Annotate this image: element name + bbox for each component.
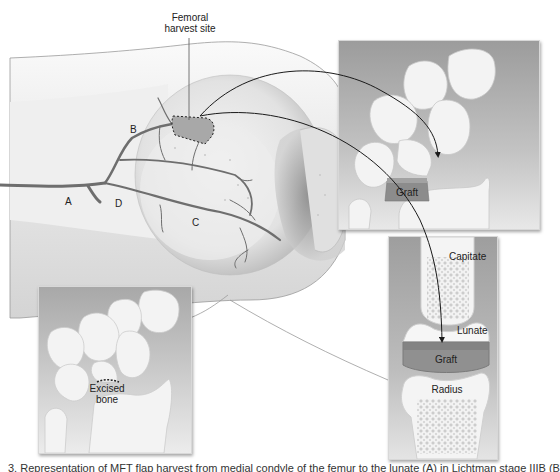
vessel-label-d: D (115, 198, 122, 209)
panel-graft-section: Capitate Lunate Graft Radius (388, 236, 498, 460)
capitate-label: Capitate (449, 251, 486, 262)
graft-label-section: Graft (429, 354, 463, 365)
wrist-bones-illustration (339, 41, 539, 229)
panel-graft-wrist-overview: Graft (338, 40, 540, 230)
vessel-label-a: A (65, 196, 72, 207)
vessel-label-c: C (192, 217, 199, 228)
graft-label-top: Graft (390, 187, 424, 198)
excised-bone-label: Excised bone (87, 383, 127, 405)
excised-wrist-illustration (39, 287, 191, 453)
radius-label: Radius (427, 384, 467, 395)
lunate-label: Lunate (457, 325, 488, 336)
panel-excised-bone: Excised bone (38, 286, 192, 454)
femoral-harvest-site-label: Femoral harvest site (162, 12, 218, 34)
section-bones-illustration (389, 237, 497, 459)
figure-caption: 3. Representation of MFT flap harvest fr… (0, 462, 560, 472)
vessel-label-b: B (130, 124, 137, 135)
